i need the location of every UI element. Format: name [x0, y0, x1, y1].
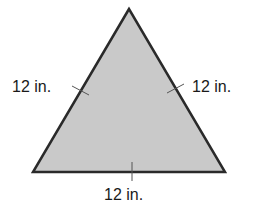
left-side-label: 12 in. — [12, 79, 51, 95]
bottom-side-label: 12 in. — [104, 187, 143, 203]
right-side-label: 12 in. — [192, 79, 231, 95]
triangle-diagram — [0, 0, 255, 217]
